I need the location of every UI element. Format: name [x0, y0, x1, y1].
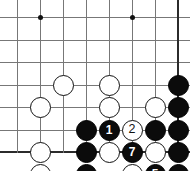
- star-point: [130, 15, 135, 20]
- stone-white: [30, 97, 51, 118]
- grid-line-horizontal: [0, 40, 190, 41]
- stone-white: [145, 97, 166, 118]
- stone-black: [168, 75, 189, 96]
- grid-line-vertical: [40, 0, 41, 153]
- numbered-stone-white-2: 2: [122, 120, 143, 141]
- stone-move-number: 1: [106, 124, 113, 136]
- grid-line-horizontal: [0, 85, 190, 86]
- grid-line-horizontal: [0, 62, 190, 63]
- stone-black: [168, 142, 189, 163]
- stone-white: [99, 142, 120, 163]
- stone-white: [145, 142, 166, 163]
- grid-line-vertical: [17, 0, 18, 153]
- stone-black: [168, 97, 189, 118]
- stone-black: [168, 120, 189, 141]
- stone-black: [76, 142, 97, 163]
- numbered-stone-black-1: 1: [99, 120, 120, 141]
- star-point: [38, 15, 43, 20]
- stone-white: [99, 75, 120, 96]
- stone-move-number: 5: [152, 168, 159, 172]
- stone-black: [145, 120, 166, 141]
- stone-white: [30, 142, 51, 163]
- go-board-diagram: 1275634: [0, 0, 190, 171]
- numbered-stone-black-7: 7: [122, 142, 143, 163]
- stone-white: [53, 75, 74, 96]
- grid-line-horizontal: [0, 17, 190, 18]
- stone-white: [99, 97, 120, 118]
- stone-move-number: 7: [129, 146, 136, 158]
- stone-black: [76, 120, 97, 141]
- stone-move-number: 2: [129, 123, 136, 136]
